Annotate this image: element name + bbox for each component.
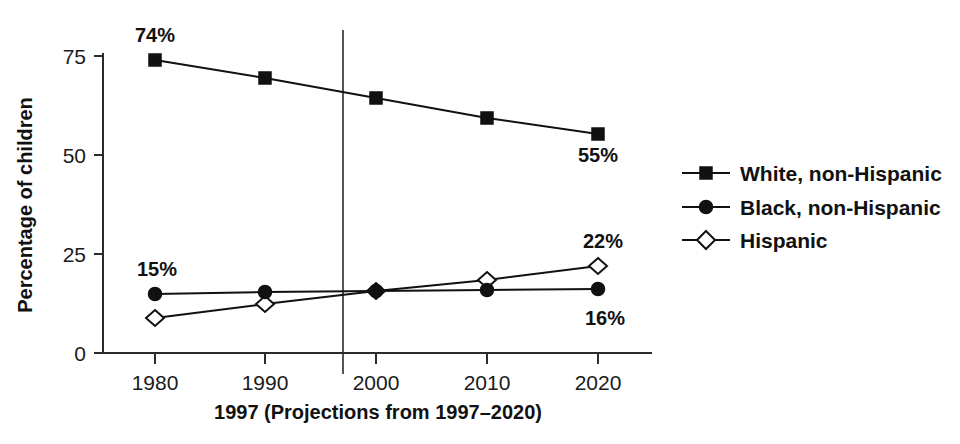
annotation-white-start: 74%: [135, 24, 175, 46]
legend-item-hispanic[interactable]: Hispanic: [682, 229, 828, 252]
chart-legend: White, non-Hispanic Black, non-Hispanic …: [682, 162, 942, 252]
legend-label-white: White, non-Hispanic: [740, 162, 942, 185]
annotation-black-end: 16%: [585, 307, 625, 329]
marker-hispanic-2020: [589, 258, 607, 274]
legend-item-white[interactable]: White, non-Hispanic: [682, 162, 942, 185]
marker-white-1990: [259, 72, 271, 84]
x-axis-title: 1997 (Projections from 1997–2020): [214, 401, 542, 423]
marker-hispanic-1980: [146, 310, 164, 326]
marker-black-2010: [481, 284, 494, 297]
legend-marker-filled-circle: [700, 201, 713, 214]
annotation-hispanic-end: 22%: [583, 230, 623, 252]
legend-marker-filled-square: [700, 167, 712, 179]
chart-container: Percentage of children 75 50 25 0 1980 1…: [0, 0, 960, 444]
marker-white-1980: [149, 54, 161, 66]
annotation-black-start: 15%: [137, 258, 177, 280]
marker-white-2010: [481, 112, 493, 124]
y-axis-title: Percentage of children: [14, 97, 36, 313]
x-axis-ticks: [155, 353, 598, 364]
x-tick-label-1990: 1990: [242, 371, 289, 394]
x-tick-label-2000: 2000: [353, 371, 400, 394]
series-white-non-hispanic: [149, 54, 604, 140]
y-tick-label-0: 0: [74, 342, 86, 365]
y-tick-label-50: 50: [63, 144, 86, 167]
annotation-white-end: 55%: [578, 144, 618, 166]
marker-black-2020: [592, 283, 605, 296]
legend-marker-open-diamond: [697, 231, 715, 249]
legend-item-black[interactable]: Black, non-Hispanic: [682, 196, 941, 219]
legend-label-hispanic: Hispanic: [740, 229, 828, 252]
y-tick-label-75: 75: [63, 45, 86, 68]
x-tick-label-1980: 1980: [132, 371, 179, 394]
y-axis-ticks: [94, 56, 103, 353]
x-tick-label-2010: 2010: [464, 371, 511, 394]
series-black-non-hispanic: [149, 283, 605, 301]
legend-label-black: Black, non-Hispanic: [740, 196, 941, 219]
x-tick-label-2020: 2020: [575, 371, 622, 394]
y-tick-label-25: 25: [63, 243, 86, 266]
marker-black-1980: [149, 288, 162, 301]
marker-black-1990: [259, 286, 272, 299]
line-chart: Percentage of children 75 50 25 0 1980 1…: [0, 0, 960, 444]
marker-white-2000: [370, 92, 382, 104]
marker-black-2000: [370, 285, 383, 298]
marker-white-2020: [592, 128, 604, 140]
